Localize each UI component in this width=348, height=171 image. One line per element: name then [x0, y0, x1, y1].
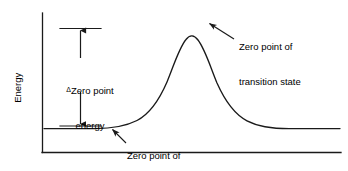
- delta-zpe-line-1: ΔZero point: [47, 84, 133, 97]
- energy-profile-figure: Energy ΔZero point energy Zero point of …: [0, 0, 348, 171]
- transition-state-line-1: Zero point of: [239, 41, 343, 53]
- reactants-line-1: Zero point of: [127, 150, 219, 162]
- annotation-delta-zero-point-energy: ΔZero point energy: [47, 61, 133, 154]
- transition-state-line-2: transition state: [239, 76, 343, 88]
- delta-zpe-text-1: Zero point: [71, 85, 114, 96]
- annotation-zero-point-transition-state: Zero point of transition state: [239, 18, 343, 110]
- y-axis-label: Energy: [12, 58, 24, 118]
- annotation-zero-point-reactants: Zero point of reactants: [127, 127, 219, 171]
- transition-state-leader-line: [210, 24, 235, 40]
- delta-zpe-line-2: energy: [47, 120, 133, 132]
